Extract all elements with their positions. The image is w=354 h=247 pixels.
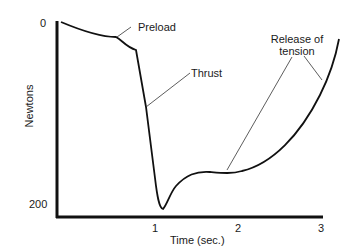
annotation-preload: Preload [138,21,176,33]
preload-leader [117,27,131,37]
x-tick-2: 2 [235,222,241,234]
y-tick-0: 0 [40,17,46,29]
y-tick-200: 200 [29,198,47,210]
y-axis-label: Newtons [23,85,35,128]
release-leader-1 [227,57,292,170]
annotation-thrust: Thrust [191,67,222,79]
annotation-release-line2: tension [267,45,327,57]
release-leader-2 [304,56,322,80]
thrust-leader [146,73,190,107]
x-tick-1: 1 [152,222,158,234]
x-tick-3: 3 [318,222,324,234]
annotation-release: Release of tension [267,33,327,57]
annotation-release-line1: Release of [267,33,327,45]
x-axis-label: Time (sec.) [170,234,225,246]
